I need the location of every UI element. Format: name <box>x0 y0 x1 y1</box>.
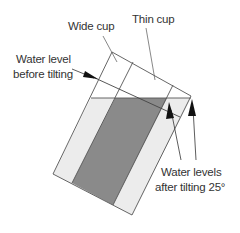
before-arrow-head <box>83 71 98 79</box>
after-tilting-label-line1: Water levels <box>161 166 221 179</box>
before-tilting-label-line2: before tilting <box>13 68 73 81</box>
after-tilting-label-line2: after tilting 25° <box>155 181 225 194</box>
wide-cup-label: Wide cup <box>68 20 114 33</box>
cup-diagram <box>0 0 240 233</box>
wide-cup-leader <box>103 36 117 62</box>
thin-cup-label: Thin cup <box>132 13 175 26</box>
before-tilting-label-line1: Water level <box>16 53 71 66</box>
